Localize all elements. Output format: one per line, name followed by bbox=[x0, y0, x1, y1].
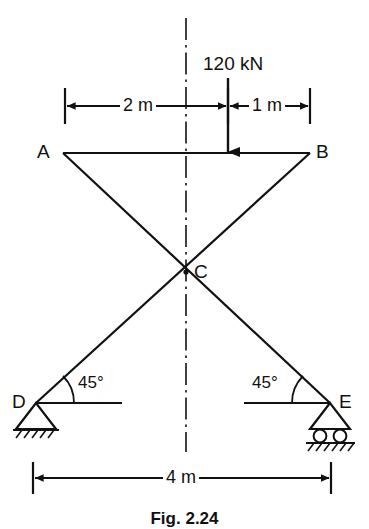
dimension-label-2m: 2 m bbox=[120, 96, 156, 114]
angle-label-right: 45° bbox=[252, 374, 278, 391]
roller-circle-right bbox=[334, 430, 347, 443]
roller-circle-left bbox=[314, 430, 327, 443]
figure-caption: Fig. 2.24 bbox=[0, 509, 369, 529]
node-label-a: A bbox=[37, 142, 50, 161]
node-label-d: D bbox=[12, 392, 26, 411]
dimension-label-1m: 1 m bbox=[249, 96, 285, 114]
joint-c-dot bbox=[183, 269, 188, 274]
load-label: 120 kN bbox=[203, 54, 263, 73]
angle-arc-right bbox=[292, 376, 303, 403]
node-label-c: C bbox=[194, 262, 208, 281]
angle-arc-left bbox=[63, 376, 74, 403]
node-label-b: B bbox=[316, 142, 329, 161]
roller-support-hatching bbox=[308, 443, 354, 451]
angle-label-left: 45° bbox=[78, 374, 104, 391]
node-label-e: E bbox=[339, 392, 352, 411]
member-bd bbox=[36, 153, 310, 403]
pinned-support-hatching bbox=[16, 430, 54, 438]
dimension-label-4m: 4 m bbox=[163, 468, 199, 486]
